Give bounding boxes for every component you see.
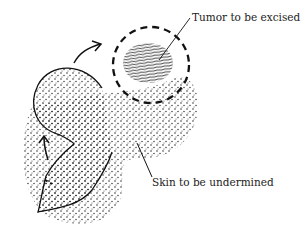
tumor-leader-line <box>159 18 190 60</box>
flap-illustration <box>0 0 307 231</box>
tumor-label: Tumor to be excised <box>192 11 300 23</box>
diagram-canvas: Tumor to be excised Skin to be undermine… <box>0 0 307 231</box>
skin-label: Skin to be undermined <box>152 176 274 188</box>
